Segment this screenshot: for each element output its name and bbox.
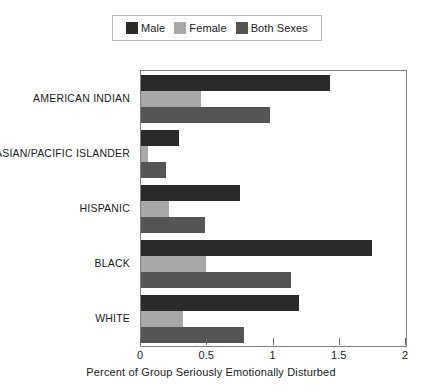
x-axis-tick [140, 338, 141, 345]
bar-female[interactable] [141, 311, 183, 327]
x-axis-tick-label: 0 [137, 349, 143, 361]
bar-female[interactable] [141, 201, 169, 217]
bar-both[interactable] [141, 217, 205, 233]
bar-group [141, 185, 406, 233]
legend-entry-female: Female [174, 22, 226, 34]
bar-both[interactable] [141, 107, 270, 123]
y-axis-label: BLACK [95, 257, 130, 269]
bar-female[interactable] [141, 146, 148, 162]
legend-label-female: Female [189, 23, 226, 34]
legend-label-male: Male [141, 23, 165, 34]
y-axis-label: AMERICAN INDIAN [33, 92, 130, 104]
bar-male[interactable] [141, 130, 179, 146]
bar-female[interactable] [141, 91, 201, 107]
x-axis-tick-label: 2 [402, 349, 408, 361]
y-axis-category-labels: AMERICAN INDIANASIAN/PACIFIC ISLANDERHIS… [0, 70, 134, 345]
bar-both[interactable] [141, 327, 244, 343]
bar-male[interactable] [141, 240, 372, 256]
y-axis-label: ASIAN/PACIFIC ISLANDER [0, 147, 130, 159]
legend-entry-both-sexes: Both Sexes [236, 22, 308, 34]
x-axis-tick-label: 0.5 [199, 349, 214, 361]
bar-group [141, 130, 406, 178]
bar-male[interactable] [141, 185, 240, 201]
legend-entry-male: Male [126, 22, 165, 34]
bar-both[interactable] [141, 272, 291, 288]
bar-male[interactable] [141, 295, 299, 311]
x-axis-tick [339, 338, 340, 345]
bar-group [141, 240, 406, 288]
x-axis-title: Percent of Group Seriously Emotionally D… [0, 366, 422, 378]
x-axis-tick [405, 338, 406, 345]
y-axis-label: WHITE [95, 312, 130, 324]
chart-legend: Male Female Both Sexes [112, 15, 322, 41]
x-axis-tick-label: 1 [269, 349, 275, 361]
x-axis-tick-labels: 00.511.52 [140, 349, 406, 365]
x-axis-tick [206, 338, 207, 345]
legend-swatch-both-sexes-icon [236, 22, 248, 34]
y-axis-label: HISPANIC [80, 202, 130, 214]
bar-group [141, 295, 406, 343]
bar-both[interactable] [141, 162, 166, 178]
legend-label-both-sexes: Both Sexes [251, 23, 308, 34]
x-axis-tick [273, 338, 274, 345]
legend-swatch-male-icon [126, 22, 138, 34]
plot-area [140, 70, 407, 347]
bar-female[interactable] [141, 256, 206, 272]
bar-group [141, 75, 406, 123]
x-axis-tick-label: 1.5 [331, 349, 346, 361]
legend-swatch-female-icon [174, 22, 186, 34]
bar-male[interactable] [141, 75, 330, 91]
